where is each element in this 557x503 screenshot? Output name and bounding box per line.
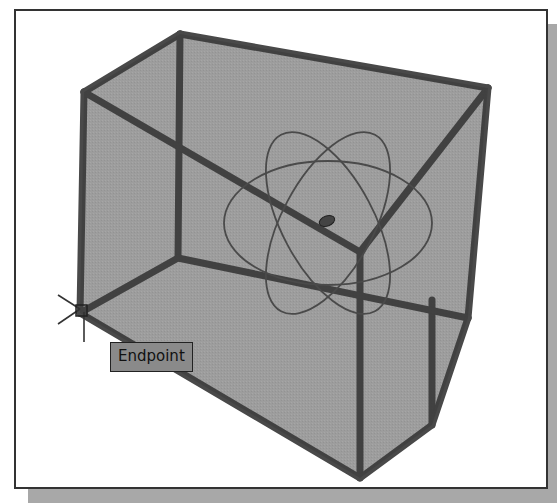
edge-left-vertical <box>80 92 84 313</box>
drawing-viewport[interactable]: Endpoint <box>14 9 548 489</box>
model-silhouette <box>80 34 488 478</box>
model-canvas[interactable] <box>14 9 548 489</box>
solid-model[interactable] <box>80 34 488 478</box>
osnap-tooltip: Endpoint <box>110 342 193 372</box>
